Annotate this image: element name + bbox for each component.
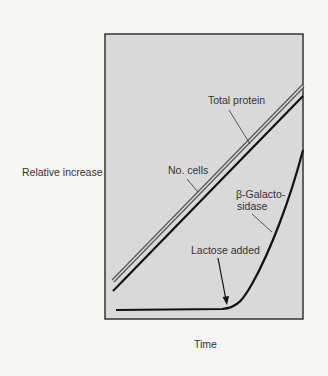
plot-frame xyxy=(105,34,303,319)
beta-gal-label-line2: sidase xyxy=(237,200,268,212)
no-cells-label: No. cells xyxy=(168,164,208,176)
beta-gal-label-line1: β-Galacto- xyxy=(236,188,286,200)
chart: Total protein No. cells β-Galacto- sidas… xyxy=(0,0,328,376)
total-protein-label: Total protein xyxy=(208,94,265,106)
lactose-added-label: Lactose added xyxy=(191,244,260,256)
